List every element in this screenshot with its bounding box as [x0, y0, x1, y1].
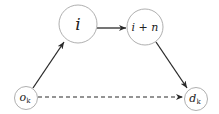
node-d-k: dk — [185, 88, 208, 111]
diagram-svg: i i + n ok dk — [0, 0, 219, 114]
node-i: i — [59, 5, 97, 43]
flow-diagram: i i + n ok dk — [0, 0, 219, 114]
node-label: i + n — [132, 21, 159, 34]
node-o-k: ok — [15, 87, 38, 110]
node-label-subscript: k — [196, 98, 201, 106]
node-label: i — [75, 14, 80, 34]
edge-ok-to-i — [33, 42, 64, 88]
node-label-main: d — [189, 92, 196, 105]
edge-i-plus-n-to-dk — [156, 42, 187, 88]
node-i-plus-n: i + n — [127, 9, 163, 45]
